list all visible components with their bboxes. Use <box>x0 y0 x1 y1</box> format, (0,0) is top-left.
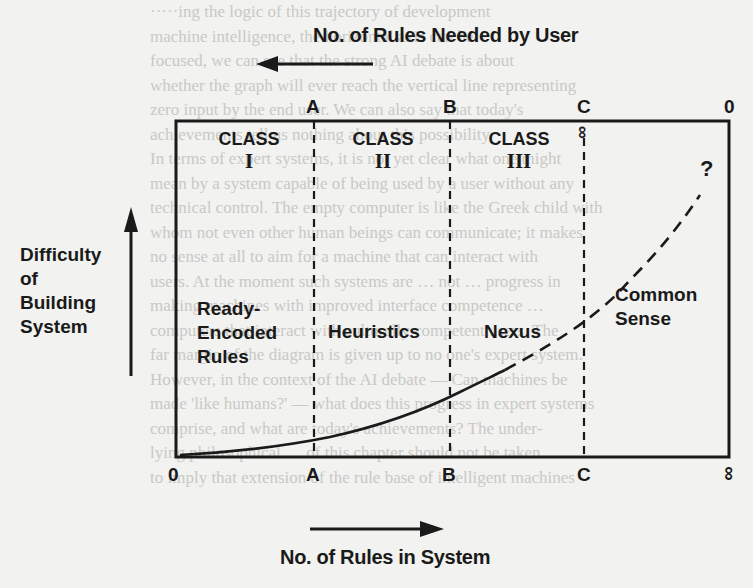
y-title-line: System <box>20 315 101 339</box>
region-line: Nexus <box>484 320 541 344</box>
y-title-line: Building <box>20 291 101 315</box>
region-line: Heuristics <box>328 320 420 344</box>
bottom-tick-zero: 0 <box>168 464 179 486</box>
class-1-label: CLASS I <box>204 128 294 172</box>
arrow-up-icon <box>124 207 138 232</box>
region-line: Common <box>615 283 697 307</box>
bottom-tick-b: B <box>442 464 456 486</box>
top-tick-a: A <box>306 96 320 118</box>
class-numeral: I <box>204 150 294 172</box>
class-numeral: III <box>474 150 564 172</box>
arrow-left-icon <box>256 56 278 72</box>
y-axis-title: Difficulty of Building System <box>20 243 101 339</box>
class-3-label: CLASS III <box>474 128 564 172</box>
class-2-label: CLASS II <box>338 128 428 172</box>
class-numeral: II <box>338 150 428 172</box>
region-common-sense: Common Sense <box>615 283 697 331</box>
region-line: Ready- <box>197 297 277 321</box>
region-line: Rules <box>197 345 277 369</box>
region-line: Sense <box>615 307 697 331</box>
top-axis-title: No. of Rules Needed by User <box>313 24 578 47</box>
unknown-marker: ? <box>700 156 713 182</box>
top-tick-c: C <box>577 96 591 118</box>
difficulty-curve-solid <box>180 370 505 455</box>
class-label: CLASS <box>474 128 564 150</box>
top-tick-zero: 0 <box>724 96 735 118</box>
bottom-axis-title: No. of Rules in System <box>280 546 490 569</box>
region-nexus: Nexus <box>484 320 541 344</box>
region-line: Encoded <box>197 321 277 345</box>
bottom-tick-c: C <box>577 464 591 486</box>
y-title-line: Difficulty <box>20 243 101 267</box>
bottom-tick-a: A <box>306 464 320 486</box>
arrow-right-icon <box>420 521 444 537</box>
class-label: CLASS <box>204 128 294 150</box>
region-ready-encoded-rules: Ready- Encoded Rules <box>197 297 277 369</box>
class-label: CLASS <box>338 128 428 150</box>
y-title-line: of <box>20 267 101 291</box>
bottom-tick-infinity: ∞ <box>718 466 741 480</box>
top-tick-b: B <box>443 96 457 118</box>
region-heuristics: Heuristics <box>328 320 420 344</box>
top-tick-c-infinity: ∞ <box>572 126 593 139</box>
